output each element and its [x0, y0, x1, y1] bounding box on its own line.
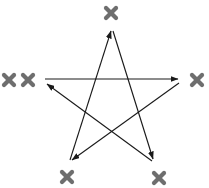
cross-mark-icon [192, 75, 202, 85]
cross-mark-icon [23, 75, 33, 85]
cross-mark-icon [4, 75, 14, 85]
cross-mark-icon [154, 173, 164, 183]
cross-mark-icon [106, 8, 116, 18]
arrow-right-to-bottom-left [72, 83, 179, 160]
cross-mark-icon [62, 172, 72, 182]
star-diagram-svg [0, 0, 209, 188]
arrow-bottom-right-to-left [47, 84, 152, 161]
arrow-bottom-left-to-top [70, 31, 111, 160]
star-diagram [0, 0, 209, 188]
arrow-edges [45, 31, 179, 161]
arrow-top-to-bottom-right [113, 31, 153, 159]
cross-marks [4, 8, 202, 183]
